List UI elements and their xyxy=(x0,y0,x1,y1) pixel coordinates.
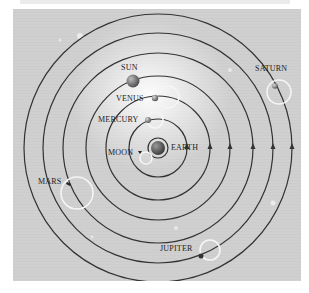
top-strip xyxy=(20,0,290,4)
venus-label: VENUS xyxy=(116,94,144,103)
sun-icon xyxy=(127,75,140,88)
saturn-label: SATURN xyxy=(255,64,287,73)
jupiter-icon xyxy=(199,254,204,259)
jupiter-label: JUPITER xyxy=(160,244,193,253)
moon-label: MOON xyxy=(108,148,133,157)
star-icon xyxy=(59,39,62,42)
earth-icon xyxy=(151,141,165,155)
mercury-label: MERCURY xyxy=(98,115,139,124)
star-icon xyxy=(91,236,94,239)
star-icon xyxy=(271,201,276,206)
star-icon xyxy=(228,68,232,72)
star-icon xyxy=(174,226,178,230)
mars-label: MARS xyxy=(38,177,61,186)
orbit-diagram xyxy=(13,9,301,281)
mercury-icon xyxy=(145,117,151,123)
venus-icon xyxy=(152,95,158,101)
saturn-icon xyxy=(272,83,278,89)
diagram-panel xyxy=(13,9,301,281)
sun-label: SUN xyxy=(121,63,138,72)
earth-label: EARTH xyxy=(171,143,198,152)
